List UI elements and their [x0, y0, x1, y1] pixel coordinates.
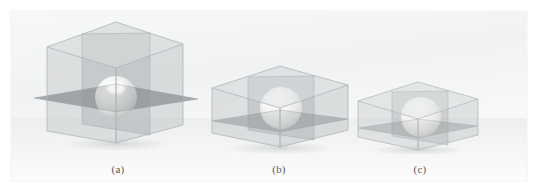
panel-b-caption: (b): [259, 163, 299, 175]
panel-a-caption: (a): [98, 163, 138, 175]
panel-c-caption: (c): [400, 163, 440, 175]
figure-container: (a) (b) (c): [0, 0, 541, 194]
